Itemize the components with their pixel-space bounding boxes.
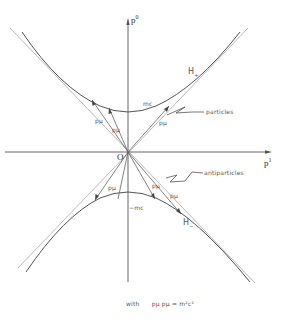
asymptote-positive-slope bbox=[18, 28, 248, 268]
p0-axis-arrowhead-icon bbox=[126, 18, 129, 25]
arrowhead-icon bbox=[109, 108, 113, 114]
antiparticles-pointer bbox=[166, 172, 203, 182]
vector-upper-left bbox=[92, 100, 128, 152]
hplus-label: H+ bbox=[188, 68, 199, 78]
vector-label-upper-right: pµ bbox=[159, 120, 167, 126]
p0-axis-label: p0 bbox=[131, 14, 139, 25]
particles-annotation: particles bbox=[206, 109, 234, 115]
caption-equation: pµ pµ = m²c² bbox=[152, 300, 194, 307]
p1-axis-arrowhead-icon bbox=[265, 150, 272, 153]
vector-label-lower-mid: pµ bbox=[152, 183, 160, 189]
momentum-diagram bbox=[0, 0, 281, 325]
minus-mc-vertex-label: −mc bbox=[129, 205, 144, 211]
vector-label-upper-mid: pµ bbox=[112, 127, 120, 133]
vector-label-lower-left: pµ bbox=[108, 185, 116, 191]
vector-label-upper-left: pµ bbox=[95, 118, 103, 124]
hplus-subscript: + bbox=[194, 72, 198, 78]
hminus-label: H− bbox=[183, 219, 194, 229]
p0-superscript: 0 bbox=[136, 14, 139, 20]
mc-vertex-label: mc bbox=[143, 101, 153, 107]
antiparticles-annotation: antiparticles bbox=[204, 170, 244, 176]
p1-superscript: 1 bbox=[269, 157, 272, 163]
hyperbola-h-plus bbox=[22, 32, 240, 112]
p1-axis-label: p1 bbox=[264, 157, 272, 168]
hminus-subscript: − bbox=[189, 223, 193, 229]
vector-label-lower-right: pµ bbox=[170, 193, 178, 199]
caption-prefix: with bbox=[126, 300, 140, 307]
particles-pointer bbox=[167, 107, 204, 115]
caption: with pµ pµ = m²c² bbox=[126, 301, 194, 307]
vector-upper-right bbox=[128, 106, 169, 152]
origin-label: O bbox=[117, 153, 124, 162]
